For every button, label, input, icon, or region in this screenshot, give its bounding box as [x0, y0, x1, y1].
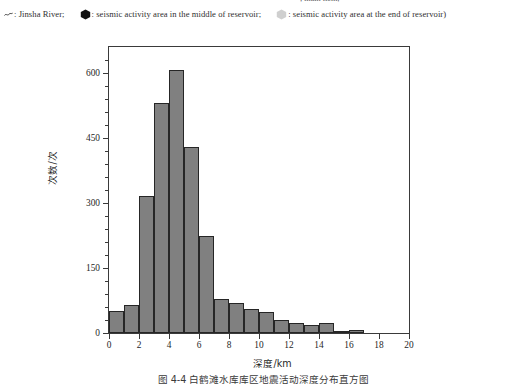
y-axis-tick	[103, 268, 108, 269]
y-axis-minor-tick	[105, 99, 108, 100]
y-axis-label: 300	[56, 198, 100, 208]
figure-caption-text: 图 4-4 白鹤滩水库库区地震活动深度分布直方图	[158, 372, 370, 384]
y-axis-minor-tick	[105, 125, 108, 126]
histogram-bar	[109, 311, 124, 333]
y-axis-label: 450	[56, 133, 100, 143]
y-axis-title: 次数/次	[45, 151, 59, 184]
histogram-bar	[139, 196, 154, 333]
histogram-bar	[154, 103, 169, 333]
x-axis-label: 2	[124, 340, 154, 350]
x-axis-label: 14	[304, 340, 334, 350]
histogram-chart: 0150300450600 02468101214161820 次数/次 深度/…	[0, 0, 513, 384]
x-axis-label: 0	[94, 340, 124, 350]
x-axis-tick	[319, 334, 320, 339]
y-axis-minor-tick	[105, 190, 108, 191]
y-axis-minor-tick	[105, 86, 108, 87]
y-axis-tick	[103, 73, 108, 74]
histogram-bar	[334, 331, 349, 333]
figure-caption: 图 4-4 白鹤滩水库库区地震活动深度分布直方图	[0, 372, 513, 384]
histogram-bar	[214, 299, 229, 333]
y-axis-minor-tick	[105, 112, 108, 113]
x-axis-tick	[139, 334, 140, 339]
y-axis-tick	[103, 203, 108, 204]
x-axis-tick	[169, 334, 170, 339]
histogram-bar	[229, 303, 244, 333]
y-axis-minor-tick	[105, 229, 108, 230]
x-axis-tick	[409, 334, 410, 339]
bars-layer	[109, 47, 409, 333]
x-axis-label: 10	[244, 340, 274, 350]
histogram-bar	[169, 70, 184, 333]
histogram-bar	[289, 323, 304, 333]
x-axis-label: 4	[154, 340, 184, 350]
histogram-bar	[124, 305, 139, 333]
x-axis-tick	[349, 334, 350, 339]
x-axis-tick	[109, 334, 110, 339]
x-axis-label: 6	[184, 340, 214, 350]
x-axis-title-text: 深度/km	[253, 356, 291, 370]
y-axis-minor-tick	[105, 60, 108, 61]
x-axis-tick	[379, 334, 380, 339]
y-axis-minor-tick	[105, 164, 108, 165]
y-axis-minor-tick	[105, 294, 108, 295]
y-axis-minor-tick	[105, 255, 108, 256]
histogram-bar	[304, 325, 319, 333]
x-axis-tick	[259, 334, 260, 339]
x-axis-label: 12	[274, 340, 304, 350]
x-axis-tick	[229, 334, 230, 339]
y-axis-minor-tick	[105, 216, 108, 217]
y-axis-label: 600	[56, 68, 100, 78]
x-axis-label: 16	[334, 340, 364, 350]
y-axis-minor-tick	[105, 307, 108, 308]
y-axis-minor-tick	[105, 320, 108, 321]
y-axis-minor-tick	[105, 177, 108, 178]
x-axis-label: 20	[394, 340, 424, 350]
x-axis-tick	[289, 334, 290, 339]
x-axis-title: 深度/km	[0, 356, 513, 370]
histogram-bar	[259, 312, 274, 333]
y-axis-minor-tick	[105, 242, 108, 243]
x-axis-label: 8	[214, 340, 244, 350]
y-axis-tick	[103, 138, 108, 139]
histogram-bar	[184, 147, 199, 333]
x-axis-tick	[199, 334, 200, 339]
y-axis-minor-tick	[105, 151, 108, 152]
histogram-bar	[319, 323, 334, 333]
histogram-bar	[349, 330, 364, 333]
y-axis-minor-tick	[105, 281, 108, 282]
y-axis-label: 0	[56, 328, 100, 338]
y-axis-tick	[103, 333, 108, 334]
y-axis-label: 150	[56, 263, 100, 273]
x-axis-label: 18	[364, 340, 394, 350]
histogram-bar	[244, 309, 259, 333]
histogram-bar	[199, 236, 214, 334]
histogram-bar	[274, 320, 289, 333]
